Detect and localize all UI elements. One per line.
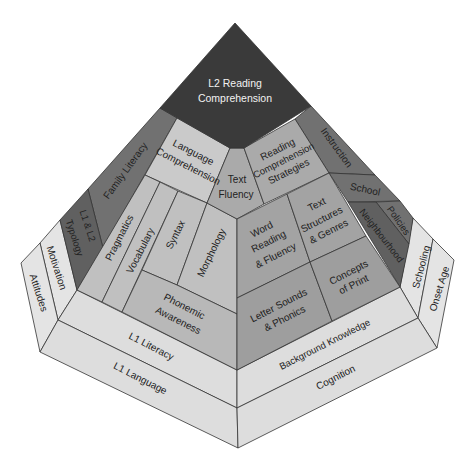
reading-comprehension-pyramid: L2 Reading Comprehension Language Compre… xyxy=(0,0,473,465)
apex-label-line2: Comprehension xyxy=(198,92,272,104)
apex-label-line1: L2 Reading xyxy=(208,77,262,89)
text-fluency-label-line2: Fluency xyxy=(218,189,253,200)
text-fluency-label-line1: Text xyxy=(228,174,247,185)
